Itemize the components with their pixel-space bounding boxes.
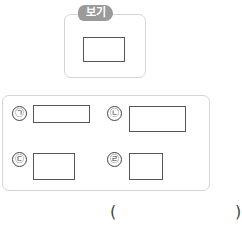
option-c-label: ㉢: [12, 152, 27, 167]
example-tag: 보기: [78, 5, 113, 21]
answer-open-paren: (: [110, 203, 116, 221]
option-b-label: ㉡: [107, 106, 122, 121]
option-d-rectangle[interactable]: [129, 153, 163, 180]
option-b-rectangle[interactable]: [129, 106, 186, 132]
answer-blank[interactable]: [122, 203, 232, 221]
option-c-rectangle[interactable]: [33, 153, 75, 180]
option-a-label: ㉠: [12, 106, 27, 121]
example-rectangle: [83, 37, 125, 62]
answer-close-paren: ): [235, 203, 241, 221]
option-a-rectangle[interactable]: [33, 105, 90, 123]
option-d-label: ㉣: [107, 152, 122, 167]
